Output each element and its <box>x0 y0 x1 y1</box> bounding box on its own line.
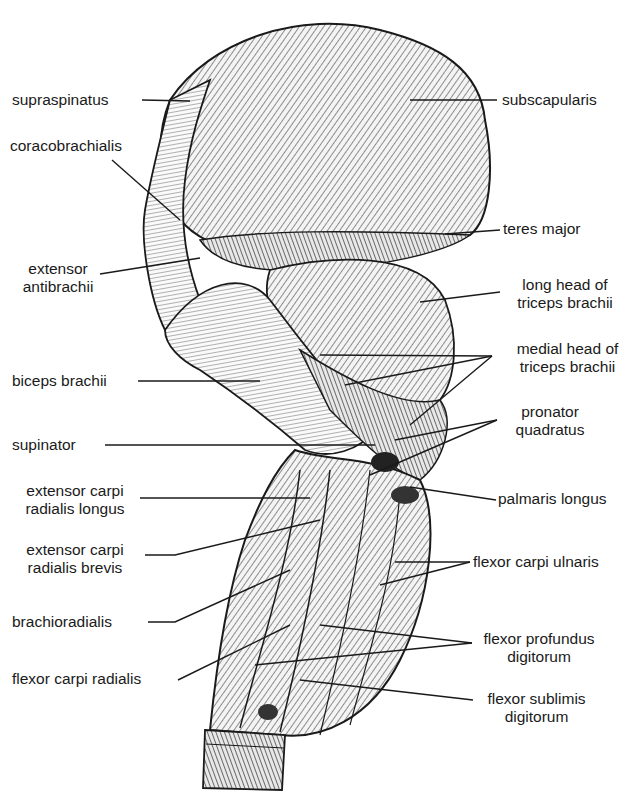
label-line: triceps brachii <box>500 294 630 312</box>
label-line: long head of <box>500 276 630 294</box>
wrist-shape <box>203 730 285 790</box>
label-line: radialis brevis <box>10 559 140 577</box>
label-supinator: supinator <box>12 436 76 454</box>
label-flexor-profundus-digitorum: flexor profundus digitorum <box>474 630 604 666</box>
label-line: digitorum <box>474 648 604 666</box>
label-extensor-antibrachii: extensor antibrachii <box>18 260 98 296</box>
label-biceps-brachii: biceps brachii <box>12 372 107 390</box>
label-pronator-quadratus: pronator quadratus <box>500 403 600 439</box>
label-line: radialis longus <box>10 500 140 518</box>
label-flexor-carpi-radialis: flexor carpi radialis <box>12 670 141 688</box>
label-line: extensor <box>18 260 98 278</box>
label-flexor-sublimis-digitorum: flexor sublimis digitorum <box>474 690 599 726</box>
label-line: pronator <box>500 403 600 421</box>
label-line: triceps brachii <box>500 358 635 376</box>
label-line: flexor profundus <box>474 630 604 648</box>
label-medial-head-triceps: medial head of triceps brachii <box>500 340 635 376</box>
subscapularis-shape <box>161 24 490 251</box>
label-line: flexor sublimis <box>474 690 599 708</box>
label-long-head-triceps: long head of triceps brachii <box>500 276 630 312</box>
label-palmaris-longus: palmaris longus <box>498 490 607 508</box>
label-line: digitorum <box>474 708 599 726</box>
label-extensor-carpi-radialis-brevis: extensor carpi radialis brevis <box>10 541 140 577</box>
label-teres-major: teres major <box>503 220 581 238</box>
label-line: antibrachii <box>18 278 98 296</box>
label-flexor-carpi-ulnaris: flexor carpi ulnaris <box>473 553 599 571</box>
label-brachioradialis: brachioradialis <box>12 613 112 631</box>
label-supraspinatus: supraspinatus <box>12 91 109 109</box>
anatomy-figure: supraspinatus coracobrachialis extensor … <box>0 0 641 796</box>
label-coracobrachialis: coracobrachialis <box>10 137 122 155</box>
label-line: medial head of <box>500 340 635 358</box>
label-extensor-carpi-radialis-longus: extensor carpi radialis longus <box>10 482 140 518</box>
label-line: extensor carpi <box>10 541 140 559</box>
label-line: quadratus <box>500 421 600 439</box>
label-line: extensor carpi <box>10 482 140 500</box>
label-subscapularis: subscapularis <box>502 91 597 109</box>
